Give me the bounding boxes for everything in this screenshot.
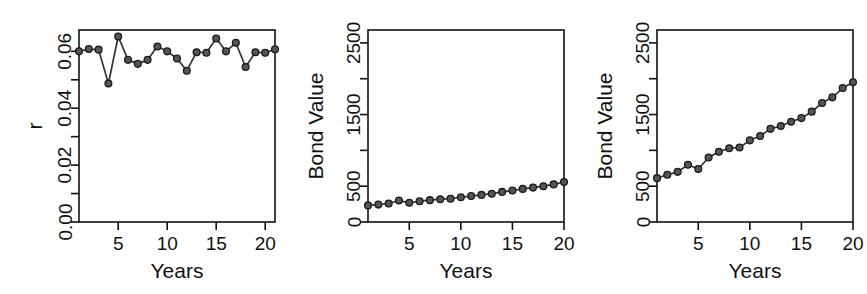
x-axis-title: Years: [729, 259, 782, 282]
data-point: [125, 56, 132, 63]
data-point: [746, 137, 753, 144]
series-markers: [654, 79, 857, 182]
data-point: [365, 202, 372, 209]
plot-frame: [368, 30, 564, 222]
data-point: [654, 175, 661, 182]
x-tick-label: 20: [553, 233, 574, 254]
data-point: [715, 148, 722, 155]
data-point: [839, 85, 846, 92]
x-axis-title: Years: [440, 259, 493, 282]
data-point: [530, 184, 537, 191]
data-point: [499, 189, 506, 196]
y-axis: 0.000.020.040.06: [55, 33, 80, 241]
data-point: [154, 43, 161, 50]
plot-svg: 0500150025005101520YearsBond Value: [578, 0, 867, 294]
panel-bond-value-b: 0500150025005101520YearsBond Value: [578, 0, 867, 294]
data-point: [540, 183, 547, 190]
x-tick-label: 15: [791, 233, 812, 254]
x-axis: 5101520: [113, 222, 276, 254]
data-point: [416, 198, 423, 205]
data-point: [105, 80, 112, 87]
data-point: [213, 35, 220, 42]
x-axis: 5101520: [404, 222, 575, 254]
data-point: [457, 194, 464, 201]
y-tick-label: 2500: [633, 22, 654, 64]
data-point: [85, 46, 92, 53]
plot-frame: [657, 30, 853, 222]
data-point: [561, 179, 568, 186]
plot-svg: 0500150025005101520YearsBond Value: [289, 0, 578, 294]
data-point: [550, 181, 557, 188]
panel-bond-value-a: 0500150025005101520YearsBond Value: [289, 0, 578, 294]
data-point: [788, 118, 795, 125]
data-point: [252, 49, 259, 56]
data-point: [262, 49, 269, 56]
data-point: [95, 46, 102, 53]
data-point: [223, 48, 230, 55]
data-point: [232, 39, 239, 46]
data-point: [757, 133, 764, 140]
data-point: [437, 196, 444, 203]
data-point: [183, 67, 190, 74]
data-point: [850, 79, 857, 86]
y-tick-label: 0.00: [55, 204, 76, 241]
y-tick-label: 0.06: [55, 33, 76, 70]
y-tick-label: 0: [344, 217, 365, 228]
x-tick-label: 5: [693, 233, 704, 254]
data-point: [509, 187, 516, 194]
x-tick-label: 15: [206, 233, 227, 254]
y-tick-label: 0.02: [55, 147, 76, 184]
data-point: [174, 55, 181, 62]
data-point: [203, 49, 210, 56]
y-tick-label: 500: [344, 170, 365, 202]
data-point: [406, 199, 413, 206]
data-point: [519, 186, 526, 193]
series-markers: [365, 179, 568, 209]
data-point: [144, 56, 151, 63]
data-point: [664, 171, 671, 178]
x-tick-label: 10: [450, 233, 471, 254]
y-tick-label: 0.04: [55, 89, 76, 126]
plot-svg: 0.000.020.040.065101520Yearsr: [0, 0, 289, 294]
data-point: [385, 200, 392, 207]
data-point: [375, 201, 382, 208]
y-tick-label: 1500: [344, 93, 365, 135]
y-tick-label: 500: [633, 170, 654, 202]
y-axis: 050015002500: [633, 22, 658, 228]
data-point: [447, 195, 454, 202]
data-point: [674, 168, 681, 175]
y-axis-title: Bond Value: [304, 72, 327, 179]
data-point: [736, 144, 743, 151]
data-point: [777, 123, 784, 130]
data-point: [134, 60, 141, 67]
x-tick-label: 10: [157, 233, 178, 254]
data-point: [426, 197, 433, 204]
data-point: [767, 125, 774, 132]
data-point: [115, 33, 122, 40]
data-point: [685, 161, 692, 168]
data-point: [819, 100, 826, 107]
data-point: [164, 48, 171, 55]
x-tick-label: 10: [739, 233, 760, 254]
x-tick-label: 5: [404, 233, 415, 254]
data-point: [76, 48, 83, 55]
y-tick-label: 2500: [344, 22, 365, 64]
panel-interest-rate: 0.000.020.040.065101520Yearsr: [0, 0, 289, 294]
data-point: [396, 197, 403, 204]
data-point: [705, 154, 712, 161]
data-point: [468, 193, 475, 200]
x-tick-label: 20: [255, 233, 276, 254]
data-point: [272, 46, 279, 53]
x-axis-title: Years: [151, 259, 204, 282]
y-tick-label: 1500: [633, 93, 654, 135]
y-axis: 050015002500: [344, 22, 369, 228]
data-point: [488, 190, 495, 197]
y-tick-label: 0: [633, 217, 654, 228]
x-tick-label: 15: [502, 233, 523, 254]
data-point: [242, 64, 249, 71]
x-tick-label: 5: [113, 233, 124, 254]
y-axis-title: r: [23, 123, 46, 130]
data-point: [695, 166, 702, 173]
y-axis-title: Bond Value: [593, 72, 616, 179]
data-point: [478, 192, 485, 199]
